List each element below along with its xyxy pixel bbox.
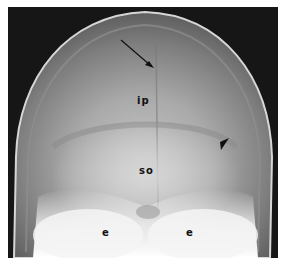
label-ip: ip [137, 96, 150, 106]
label-e-left: e [102, 228, 110, 238]
skull-radiograph [8, 7, 278, 258]
label-e-right: e [186, 228, 194, 238]
radiograph-image: ip so e e [8, 7, 278, 258]
label-so: so [139, 166, 154, 176]
